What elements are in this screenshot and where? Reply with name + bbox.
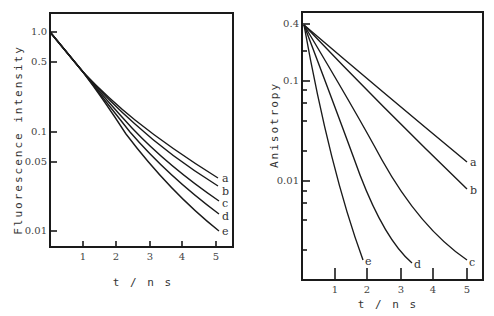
x-tick-label: 4 (430, 284, 436, 295)
y-tick-label: 1.0 (31, 26, 47, 37)
x-axis-label: t / n s (113, 276, 173, 289)
curve-a (50, 32, 218, 178)
curve-label-b: b (470, 184, 477, 197)
x-tick-label: 5 (464, 284, 470, 295)
curve-b (304, 25, 467, 189)
fluorescence-chart: 1.0 0.5 0.1 0.05 0.01 1 2 3 4 5 t / n s … (12, 13, 233, 289)
curve-label-c: c (469, 256, 475, 269)
anisotropy-chart: 0.4 0.1 0.01 1 2 3 4 5 t / n s Anisotrop… (268, 12, 483, 311)
x-tick-label: 3 (398, 284, 404, 295)
y-tick-label: 0.01 (277, 175, 299, 186)
x-tick-label: 3 (147, 251, 153, 262)
curve-label-c: c (222, 197, 228, 210)
curve-label-e: e (365, 255, 372, 268)
x-tick-label: 2 (113, 251, 119, 262)
y-tick-label: 0.1 (31, 126, 47, 137)
y-tick-label: 0.4 (283, 18, 299, 29)
curve-c (50, 32, 219, 201)
x-tick-label: 4 (179, 251, 185, 262)
x-tick-label: 1 (80, 251, 86, 262)
curve-label-e: e (222, 225, 229, 238)
y-tick-label: 0.5 (31, 56, 47, 67)
curve-label-d: d (414, 258, 421, 271)
figure: 1.0 0.5 0.1 0.05 0.01 1 2 3 4 5 t / n s … (0, 0, 494, 316)
y-axis-label: Fluorescence intensity (12, 45, 25, 235)
curve-label-d: d (222, 210, 229, 223)
y-axis-label: Anisotropy (268, 82, 281, 168)
x-tick-label: 5 (213, 251, 219, 262)
x-tick-label: 2 (364, 284, 370, 295)
curve-d (304, 25, 412, 263)
curve-e (304, 25, 363, 260)
x-tick-label: 1 (332, 284, 338, 295)
y-tick-label: 0.05 (25, 156, 47, 167)
curve-b (50, 32, 218, 186)
curve-label-a: a (222, 172, 229, 185)
y-tick-label: 0.01 (25, 225, 47, 236)
y-tick-label: 0.1 (283, 75, 299, 86)
curve-label-a: a (470, 156, 477, 169)
x-axis-label: t / n s (358, 298, 418, 311)
